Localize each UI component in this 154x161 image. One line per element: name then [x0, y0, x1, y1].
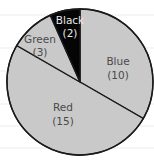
- slice-label-black: Black: [56, 14, 85, 26]
- pie-slices: [7, 9, 153, 155]
- slice-label-green: Green: [24, 33, 56, 45]
- slice-label-red: Red: [53, 101, 73, 113]
- slice-value-black: (2): [63, 27, 78, 39]
- slice-value-blue: (10): [107, 69, 129, 81]
- pie-chart: Blue(10)Red(15)Green(3)Black(2): [0, 0, 154, 161]
- slice-value-red: (15): [52, 115, 74, 127]
- slice-label-blue: Blue: [106, 55, 129, 67]
- slice-value-green: (3): [33, 46, 48, 58]
